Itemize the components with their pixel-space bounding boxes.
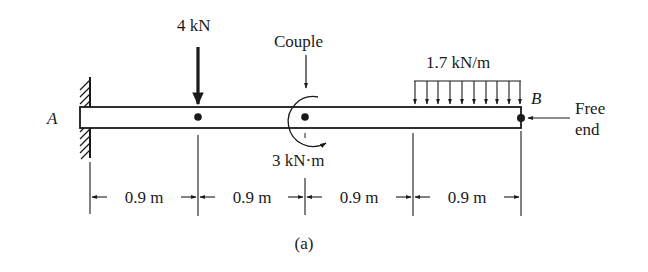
couple-point-dot [301,113,309,121]
dimension-label-4: 0.9 m [448,188,487,207]
load-point-dot [194,113,202,121]
dimension-label-2: 0.9 m [233,188,272,207]
couple-label: 3 kN·m [272,151,324,170]
couple-title: Couple [274,32,323,51]
point-load-label: 4 kN [177,16,211,35]
dimension-label-1: 0.9 m [125,188,164,207]
figure-caption: (a) [295,234,314,253]
free-end-label-b: B [531,89,542,108]
distributed-load-arrows-icon [414,81,521,104]
free-end-note-line2: end [575,120,600,139]
beam-diagram: A 4 kN Couple 3 kN·m 1.7 kN/m B Free end [0,0,648,272]
free-end-note-line1: Free [575,99,605,118]
free-end-dot [517,114,525,122]
support-label-a: A [46,109,58,128]
dimension-label-3: 0.9 m [340,188,379,207]
beam [80,107,521,128]
distributed-load-label: 1.7 kN/m [426,53,490,72]
